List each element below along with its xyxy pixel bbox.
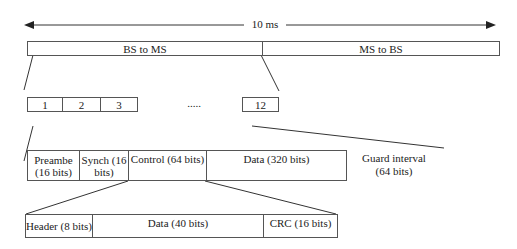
header-field: Header (8 bits) [26,215,92,237]
synch-field: Synch (16 bits) [79,151,128,180]
preamble-field: Preambe (16 bits) [28,151,79,180]
slot-2: 2 [62,98,100,111]
control-data-field: Data (40 bits) [92,215,263,237]
slots-group: 1 2 3 [27,97,138,112]
crc-field: CRC (16 bits) [263,215,337,237]
control-structure: Header (8 bits) Data (40 bits) CRC (16 b… [25,214,338,238]
control-field: Control (64 bits) [128,151,206,180]
connector-lines [0,0,517,249]
slot-12: 12 [242,97,279,112]
data-field: Data (320 bits) [206,151,346,180]
slot-3: 3 [100,98,137,111]
slot-structure: Preambe (16 bits) Synch (16 bits) Contro… [27,150,347,181]
uplink-segment: MS to BS [262,42,499,55]
downlink-segment: BS to MS [28,42,262,55]
guard-interval-label: Guard interval (64 bits) [354,152,434,178]
slot-1: 1 [28,98,62,111]
slots-ellipsis: ..... [178,97,210,110]
frame-bar: BS to MS MS to BS [27,41,500,56]
duration-label: 10 ms [244,18,286,31]
